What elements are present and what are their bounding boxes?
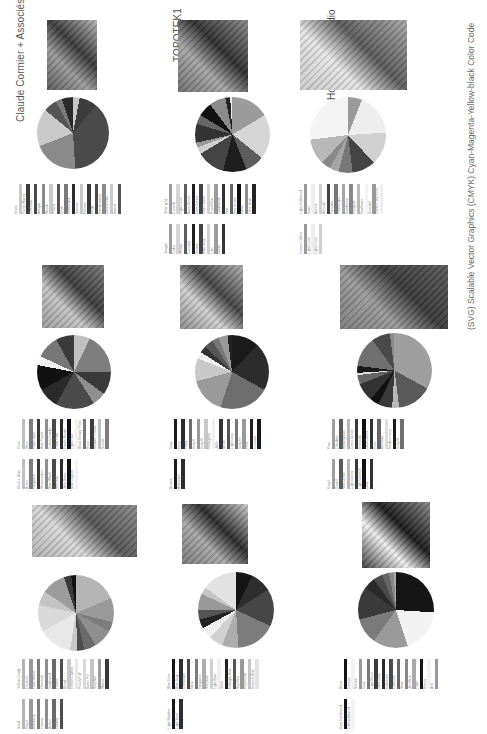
legend-2-2-col1: Dark GoldenrodOld Goldenrod [340, 699, 355, 729]
pie-chart-0-2 [310, 97, 386, 173]
legend-item: Coconut [254, 419, 262, 449]
legend-2-1-col1: Light SkyblueLight Steel [168, 699, 183, 729]
photo-texture [180, 265, 243, 329]
legend-item: Olive Drab [249, 184, 257, 214]
legend-2-1-col0: Blue CornBlue DogCornflowerNavyTurquoise… [168, 659, 259, 689]
legend-0-1-col0: Slate greyCornsilkLight CoralArmy GreenD… [165, 184, 256, 214]
legend-2-2-col0: BlackCarbonSmokeGrayLight BlackDark Gray… [340, 659, 439, 689]
page-canvas: Claude Cormier + Associés TOPOTEK1 Hood … [0, 0, 487, 734]
legend-item: Gray III [396, 419, 404, 449]
legend-swatch [370, 459, 373, 489]
pie-chart-2-1 [198, 572, 274, 648]
legend-swatch [181, 459, 184, 489]
legend-swatch [118, 184, 121, 214]
legend-0-0-col0: SepiaFuzzy WuzzyChestnutAntiqueWoodPeach… [15, 184, 121, 214]
legend-1-2-col0: PineObsidianWintergreenCamo GreenEmerald… [328, 419, 404, 449]
legend-2-0-col0: Yellow CandyCaramelLava WheatChestnutGol… [18, 659, 109, 689]
legend-swatch [252, 184, 255, 214]
pie-chart-1-1 [195, 335, 269, 409]
pie-chart-2-0 [38, 575, 114, 651]
pie-chart-0-0 [37, 97, 109, 169]
legend-item: Tropical Blue [252, 659, 260, 689]
legend-1-2-col1: Gray IGray IISea GreenLight GreenLight G… [328, 459, 374, 489]
legend-item: Ash [431, 659, 439, 689]
legend-swatch [105, 419, 108, 449]
project-photo-2-2 [362, 502, 430, 568]
photo-texture [42, 265, 104, 328]
project-photo-2-1 [182, 504, 248, 564]
project-photo-1-1 [180, 265, 243, 329]
project-photo-1-2 [340, 265, 448, 329]
legend-1-1-col1: BronzeAluminum [170, 459, 185, 489]
legend-swatch [380, 184, 383, 214]
pie-chart-0-1 [195, 97, 270, 172]
legend-swatch [60, 699, 63, 729]
photo-texture [340, 265, 448, 329]
pie-chart-1-0 [37, 335, 111, 409]
legend-swatch [400, 419, 403, 449]
photo-texture [47, 20, 97, 90]
legend-swatch [222, 224, 225, 254]
legend-swatch [319, 224, 322, 254]
legend-item: Grape [218, 224, 226, 254]
pie-chart-1-2 [357, 333, 432, 408]
legend-swatch [105, 659, 108, 689]
legend-0-2-col1: Lemon ChiffonLight CoralLight Coral [300, 224, 323, 254]
figure-caption: (SVG) Scalable Vector Graphics (CMYK) Cy… [466, 23, 476, 330]
legend-item: Gray [366, 459, 374, 489]
photo-texture [182, 504, 248, 564]
legend-swatch [435, 659, 438, 689]
project-photo-0-2 [300, 20, 407, 90]
row-title-claude-cormier: Claude Cormier + Associés [15, 0, 26, 122]
legend-item: Scarlet [102, 419, 110, 449]
photo-texture [300, 20, 407, 90]
legend-2-0-col1: SandTinselBlueberryCanaryAmberGolden [18, 699, 64, 729]
legend-item: Green Clay Rock [376, 184, 384, 214]
legend-item: Old Goldenrod [348, 699, 356, 729]
legend-1-0-col0: PearlHazePink PurpleBlue PurpleCotton Ca… [18, 419, 109, 449]
photo-texture [32, 505, 137, 557]
legend-swatch [351, 699, 354, 729]
legend-item: Golden [56, 699, 64, 729]
legend-item: Aluminum [178, 459, 186, 489]
legend-item: Sunset [114, 184, 122, 214]
legend-item: Light Steel [176, 699, 184, 729]
legend-swatch [257, 419, 260, 449]
legend-1-0-col1: Electric BlueAzureTurquoiseStratosphereB… [18, 459, 79, 489]
legend-swatch [179, 699, 182, 729]
legend-item: Blue Lagoon [71, 459, 79, 489]
pie-chart-2-2 [358, 572, 434, 648]
legend-1-1-col0: GrayIvoryLeadGray IIGray IIIMahoganyJaff… [170, 419, 261, 449]
project-photo-0-1 [178, 20, 248, 92]
legend-0-1-col1: JonquilCedarWalnutCoconutSiennaBlue Gray… [165, 224, 226, 254]
legend-swatch [75, 459, 78, 489]
project-photo-2-0 [32, 505, 137, 557]
legend-item: Wheat [102, 659, 110, 689]
legend-item: Light Coral [315, 224, 323, 254]
photo-texture [178, 20, 248, 92]
project-photo-1-0 [42, 265, 104, 328]
project-photo-0-0 [47, 20, 97, 90]
photo-texture [362, 502, 430, 568]
legend-0-2-col0: Light GoldenrodDuneApricotAlmondPumpkinC… [300, 184, 384, 214]
legend-swatch [255, 659, 258, 689]
